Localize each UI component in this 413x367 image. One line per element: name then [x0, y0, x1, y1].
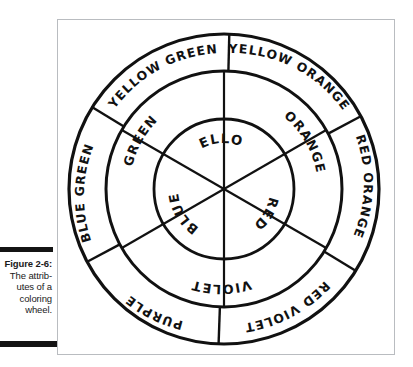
wheel-label-blue-text: BLUE — [166, 191, 201, 237]
caption-line-4: wheel. — [0, 304, 52, 316]
wheel-label-violet: VIOLET — [189, 277, 253, 297]
wheel-outer-spoke-upper-left — [92, 107, 124, 127]
caption-rule-top — [0, 247, 53, 252]
wheel-label-yellow-orange-text: YELLOW ORANGE — [227, 41, 353, 113]
wheel-label-red: RED — [251, 196, 282, 234]
caption-rule-bottom — [0, 341, 57, 347]
wheel-label-red-text: RED — [251, 196, 282, 234]
wheel-label-yellow-green-text: YELLOW GREEN — [105, 41, 219, 112]
wheel-label-yellow-orange: YELLOW ORANGE — [227, 41, 353, 113]
caption-line-3: coloring — [0, 293, 52, 305]
caption-line-2: utes of a — [0, 281, 52, 293]
figure-number-label: Figure 2-6: — [0, 258, 52, 270]
wheel-label-yellow-green: YELLOW GREEN — [105, 41, 219, 112]
wheel-label-violet-text: VIOLET — [189, 277, 253, 297]
wheel-outer-spoke-lower-right — [324, 252, 356, 272]
caption-line-1: The attrib- — [0, 270, 52, 282]
figure-caption-text: Figure 2-6: The attrib- utes of a colori… — [0, 258, 53, 316]
figure-caption-block: Figure 2-6: The attrib- utes of a colori… — [0, 247, 53, 316]
wheel-spoke-lower-right — [224, 189, 326, 248]
wheel-label-blue: BLUE — [166, 191, 201, 237]
wheel-outer-spoke-lower-left — [87, 244, 120, 261]
figure-panel: YELLOW ORANGE RED ORANGE RED VIOLET PURP… — [57, 19, 395, 355]
wheel-outer-spoke-bottom — [219, 307, 220, 344]
color-wheel-diagram: YELLOW ORANGE RED ORANGE RED VIOLET PURP… — [58, 20, 394, 354]
wheel-outer-spoke-upper-right — [328, 116, 361, 133]
